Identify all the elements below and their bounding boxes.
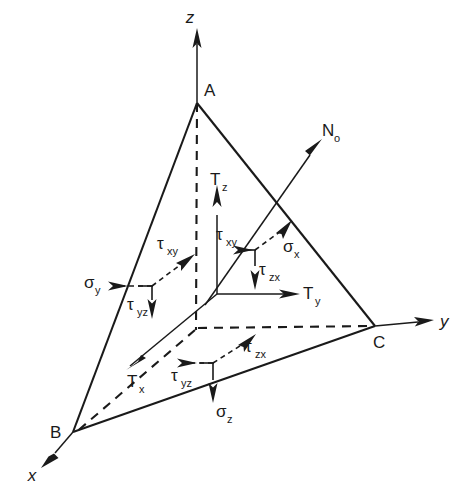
x-axis-arrowhead	[41, 454, 59, 469]
stress-tau-zx-lower-group: τ zx	[238, 334, 267, 360]
normal-label-sub: o	[334, 132, 340, 144]
tau-xy-upper-label-main: τ	[216, 225, 223, 244]
tz-label-sub: z	[222, 181, 228, 193]
sigma-y-label-sub: y	[95, 284, 101, 296]
vertex-c-label: C	[373, 333, 385, 352]
stress-sigma-z-group: σ z	[209, 383, 233, 425]
tx-label-sub: x	[139, 383, 145, 395]
tx-arrowhead	[126, 355, 146, 370]
sigma-y-label-main: σ	[84, 273, 95, 292]
tetrahedron-outer-face	[73, 103, 375, 432]
sigma-z-label-sub: z	[227, 413, 233, 425]
y-axis-label: y	[439, 312, 450, 331]
axis-group-y: y	[375, 312, 450, 331]
x-axis-label: x	[27, 466, 37, 485]
tau-xy-upper-label-sub: xy	[226, 236, 238, 248]
ty-label-main: T	[303, 284, 313, 303]
traction-ty-group: T y	[279, 284, 321, 307]
edge-A-origin-dashed	[196, 103, 197, 330]
normal-label-main: N	[322, 121, 334, 140]
tx-label-main: T	[127, 372, 137, 391]
tau-zx-lower-lead-dashed	[213, 344, 243, 363]
inner-oblique-stem	[130, 294, 217, 366]
sigma-x-label-sub: x	[294, 248, 300, 260]
tau-yz-lower-arrowhead	[177, 359, 197, 368]
tau-xy-left-lead-dashed	[152, 262, 184, 286]
edge-origin-C-dashed	[198, 326, 373, 328]
sigma-x-label-main: σ	[283, 237, 294, 256]
tau-zx-upper-label-sub: zx	[269, 271, 281, 283]
tau-zx-lower-label-main: τ	[245, 337, 252, 356]
vertex-b-label: B	[50, 423, 61, 442]
stress-tau-yz-lower-group: τ yz	[171, 359, 197, 390]
traction-tz-group: T z	[210, 170, 228, 207]
stress-tetrahedron-figure: z y x	[0, 0, 463, 496]
axis-group-z: z	[185, 8, 202, 103]
sigma-y-arrowhead	[108, 282, 128, 291]
tau-yz-lower-label-sub: yz	[181, 377, 192, 389]
stress-tau-xy-left-group: τ xy	[157, 234, 195, 271]
tau-yz-lower-label-main: τ	[171, 366, 178, 385]
sigma-z-arrowhead	[209, 383, 218, 403]
sigma-x-lead-dashed	[255, 231, 281, 250]
stress-sigma-y-group: σ y	[84, 273, 128, 296]
tau-zx-lower-label-sub: zx	[255, 348, 267, 360]
stress-tau-xy-upper-group: τ xy	[216, 225, 253, 255]
ty-label-sub: y	[315, 295, 321, 307]
diagram-canvas: z y x	[0, 0, 463, 496]
y-axis-line	[375, 322, 418, 326]
tau-xy-left-arrowhead	[176, 254, 195, 271]
tau-xy-left-label-sub: xy	[167, 245, 179, 257]
tau-yz-left-label-main: τ	[127, 295, 134, 314]
tau-yz-left-label-sub: yz	[137, 306, 148, 318]
tau-xy-left-label-main: τ	[157, 234, 164, 253]
sigma-z-label-main: σ	[216, 402, 227, 421]
tau-zx-upper-label-main: τ	[259, 260, 266, 279]
normal-vector-arrowhead	[305, 139, 322, 160]
tz-label-main: T	[210, 170, 220, 189]
tau-yz-left-arrowhead	[148, 299, 157, 319]
vertex-a-label: A	[204, 81, 216, 100]
z-axis-label: z	[185, 8, 195, 27]
inner-element-construction	[130, 215, 287, 366]
